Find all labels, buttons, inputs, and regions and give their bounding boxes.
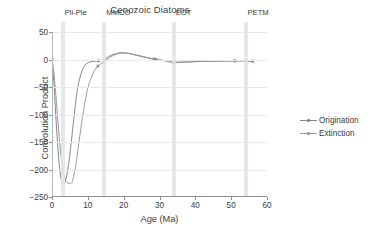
x-tick-mark [160,197,161,200]
legend-item-extinction[interactable]: Extinction [300,127,359,140]
gridline [52,142,267,143]
event-band-mmco [102,22,106,197]
y-tick-mark [49,142,52,143]
y-tick-mark [49,87,52,88]
legend-label: Extinction [319,129,355,138]
event-label-petm: PETM [248,8,269,17]
x-tick-label: 40 [191,201,200,210]
y-tick-label: −50 [14,83,48,92]
event-label-pli-ple: Pli-Ple [65,8,87,17]
legend-swatch-icon [300,129,317,138]
event-band-pli-ple [61,22,65,197]
y-tick-label: −200 [14,165,48,174]
gridline [52,32,267,33]
event-band-eot [172,22,176,197]
y-tick-label: −150 [14,138,48,147]
x-tick-label: 60 [262,201,271,210]
data-point-marker [97,65,100,68]
y-tick-label: −250 [14,193,48,202]
y-tick-label: 50 [14,28,48,37]
gridline [52,115,267,116]
legend-item-origination[interactable]: Origination [300,114,359,127]
gridline [52,87,267,88]
gridline [52,170,267,171]
y-tick-mark [49,60,52,61]
legend-swatch-icon [300,116,317,125]
y-tick-label: −100 [14,110,48,119]
x-tick-mark [195,197,196,200]
y-tick-mark [49,115,52,116]
legend-label: Origination [319,116,359,125]
x-tick-label: 10 [83,201,92,210]
y-tick-mark [49,32,52,33]
event-band-petm [244,22,248,197]
chart-legend: OriginationExtinction [300,114,359,140]
x-tick-label: 50 [227,201,236,210]
y-tick-label: 0 [14,55,48,64]
x-tick-label: 20 [119,201,128,210]
x-tick-mark [52,197,53,200]
plot-area: 500−50−100−150−200−250 0102030405060 Pli… [52,32,267,197]
x-tick-label: 30 [155,201,164,210]
y-axis-line [52,32,53,197]
x-axis-label: Age (Ma) [52,214,267,224]
series-line-extinction [52,53,253,183]
event-label-mmco: MMCO [106,8,130,17]
y-tick-mark [49,170,52,171]
event-label-eot: EOT [176,8,192,17]
x-tick-mark [231,197,232,200]
x-tick-mark [124,197,125,200]
chart-figure: Cenozoic Diatoms Convolution Product 500… [0,0,391,236]
x-tick-mark [88,197,89,200]
gridline [52,60,267,61]
x-tick-mark [267,197,268,200]
x-tick-label: 0 [50,201,55,210]
